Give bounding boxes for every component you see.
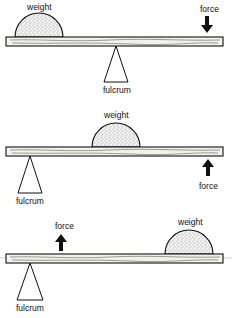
weight-dome (15, 13, 63, 37)
lever-2: weight fulcrum force (6, 110, 223, 206)
fulcrum-label: fulcrum (103, 85, 131, 95)
force-label: force (199, 181, 218, 191)
weight-dome (165, 230, 213, 254)
weight-label: weight (103, 110, 129, 120)
force-arrow-down-icon (201, 16, 213, 33)
lever-plank (6, 147, 223, 156)
fulcrum-label: fulcrum (16, 196, 44, 206)
force-label: force (200, 4, 219, 14)
fulcrum-triangle (17, 263, 43, 300)
weight-dome (92, 123, 140, 147)
fulcrum-triangle (104, 46, 128, 82)
fulcrum-triangle (18, 156, 42, 193)
lever-plank (6, 37, 223, 46)
weight-label: weight (26, 2, 52, 12)
lever-1: weight force fulcrum (6, 2, 223, 95)
force-arrow-up-icon (55, 234, 67, 251)
lever-3: force weight fulcrum (0, 217, 232, 313)
force-label: force (55, 221, 74, 231)
weight-label: weight (177, 217, 203, 227)
lever-plank (6, 254, 223, 263)
fulcrum-label: fulcrum (16, 303, 44, 313)
force-arrow-up-icon (202, 159, 214, 176)
lever-diagram: weight force fulcrum weight fulcrum forc… (0, 0, 232, 318)
